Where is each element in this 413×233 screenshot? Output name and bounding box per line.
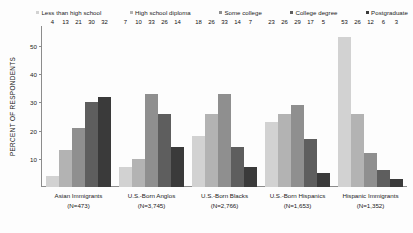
bar-wrapper: 17 [304, 26, 317, 187]
bar-wrapper: 23 [265, 26, 278, 187]
y-axis-title-text: PERCENT OF RESPONDENTS [10, 57, 17, 156]
bar-wrapper: 29 [291, 26, 304, 187]
legend-item[interactable]: College degree [290, 9, 337, 16]
x-axis-category-count: (N=1,352) [334, 201, 407, 211]
bar-wrapper: 26 [205, 26, 218, 187]
bar[interactable]: 32 [98, 97, 111, 187]
x-axis-category: U.S.-Born Blacks(N=2,766) [188, 191, 261, 210]
bar-value-label: 18 [195, 19, 202, 25]
bar-wrapper: 7 [244, 26, 257, 187]
bar[interactable]: 29 [291, 105, 304, 187]
bar[interactable]: 33 [145, 94, 158, 187]
bar-value-label: 26 [281, 19, 288, 25]
bar[interactable]: 21 [72, 128, 85, 187]
bar-wrapper: 26 [351, 26, 364, 187]
y-tick-label: 40 [30, 71, 37, 78]
chart-legend: Less than high schoolHigh school diploma… [36, 9, 408, 16]
bar[interactable]: 18 [192, 136, 205, 187]
bar-value-label: 26 [354, 19, 361, 25]
legend-label: College degree [295, 9, 337, 16]
bar-wrapper: 53 [338, 26, 351, 187]
bar-wrapper: 10 [132, 26, 145, 187]
x-axis-category-count: (N=2,766) [188, 201, 261, 211]
bar-wrapper: 14 [171, 26, 184, 187]
bar[interactable]: 6 [377, 170, 390, 187]
bar[interactable]: 30 [85, 102, 98, 187]
bar[interactable]: 5 [317, 173, 330, 187]
legend-item[interactable]: Postgraduate [366, 9, 408, 16]
bar-value-label: 14 [174, 19, 181, 25]
bar[interactable]: 23 [265, 122, 278, 187]
bar[interactable]: 14 [231, 147, 244, 187]
bar-value-label: 10 [135, 19, 142, 25]
legend-label: Some college [224, 9, 262, 16]
bar-wrapper: 26 [158, 26, 171, 187]
bar[interactable]: 7 [244, 167, 257, 187]
legend-label: High school diploma [135, 9, 191, 16]
bar-value-label: 30 [88, 19, 95, 25]
x-axis-category-name: U.S.-Born Hispanics [261, 191, 334, 201]
legend-swatch-icon [219, 11, 222, 14]
bar-wrapper: 5 [317, 26, 330, 187]
plot-area: 1020304050 41321303271033261418263314723… [41, 26, 407, 187]
bar-group: 53261263 [334, 26, 407, 187]
x-axis-category-name: Hispanic Immigrants [334, 191, 407, 201]
bar-wrapper: 13 [59, 26, 72, 187]
bar-wrapper: 21 [72, 26, 85, 187]
bar[interactable]: 26 [351, 114, 364, 187]
legend-item[interactable]: Some college [219, 9, 262, 16]
bar[interactable]: 7 [119, 167, 132, 187]
bar-wrapper: 18 [192, 26, 205, 187]
bar-wrapper: 12 [364, 26, 377, 187]
bar-wrapper: 3 [390, 26, 403, 187]
x-axis-category: Asian Immigrants(N=473) [42, 191, 115, 210]
y-tick-label: 20 [30, 127, 37, 134]
legend-label: Postgraduate [371, 9, 408, 16]
bar-chart: Less than high schoolHigh school diploma… [0, 0, 413, 233]
legend-item[interactable]: Less than high school [36, 9, 101, 16]
bar-group: 710332614 [115, 26, 188, 187]
y-tick-label: 50 [30, 42, 37, 49]
bar[interactable]: 3 [390, 179, 403, 187]
bar[interactable]: 12 [364, 153, 377, 187]
x-axis-category-name: Asian Immigrants [42, 191, 115, 201]
legend-swatch-icon [290, 11, 293, 14]
x-axis-category-name: U.S.-Born Anglos [115, 191, 188, 201]
bar-value-label: 3 [395, 19, 398, 25]
bar-value-label: 6 [382, 19, 385, 25]
bar[interactable]: 13 [59, 150, 72, 187]
x-axis-category-name: U.S.-Born Blacks [188, 191, 261, 201]
bar-value-label: 29 [294, 19, 301, 25]
bar[interactable]: 10 [132, 159, 145, 187]
y-tick-label: 30 [30, 99, 37, 106]
legend-label: Less than high school [41, 9, 101, 16]
x-axis-category: Hispanic Immigrants(N=1,352) [334, 191, 407, 210]
bar-value-label: 33 [148, 19, 155, 25]
legend-swatch-icon [130, 11, 133, 14]
bar[interactable]: 26 [205, 114, 218, 187]
bar-value-label: 13 [62, 19, 69, 25]
bar-wrapper: 33 [218, 26, 231, 187]
legend-item[interactable]: High school diploma [130, 9, 191, 16]
bar[interactable]: 4 [46, 176, 59, 187]
bar-value-label: 17 [307, 19, 314, 25]
bar-group: 232629175 [261, 26, 334, 187]
bar[interactable]: 26 [278, 114, 291, 187]
bar[interactable]: 26 [158, 114, 171, 187]
bar-value-label: 32 [101, 19, 108, 25]
bar-value-label: 33 [221, 19, 228, 25]
bar-wrapper: 6 [377, 26, 390, 187]
x-axis-category-count: (N=1,653) [261, 201, 334, 211]
bar-value-label: 7 [249, 19, 252, 25]
bar-wrapper: 33 [145, 26, 158, 187]
bar-value-label: 14 [234, 19, 241, 25]
bar[interactable]: 53 [338, 37, 351, 187]
bar-value-label: 26 [161, 19, 168, 25]
x-axis-category-count: (N=3,745) [115, 201, 188, 211]
bar[interactable]: 33 [218, 94, 231, 187]
bar-value-label: 5 [322, 19, 325, 25]
bar[interactable]: 17 [304, 139, 317, 187]
x-axis-labels: Asian Immigrants(N=473)U.S.-Born Anglos(… [42, 191, 407, 210]
bar[interactable]: 14 [171, 147, 184, 187]
bar-wrapper: 4 [46, 26, 59, 187]
